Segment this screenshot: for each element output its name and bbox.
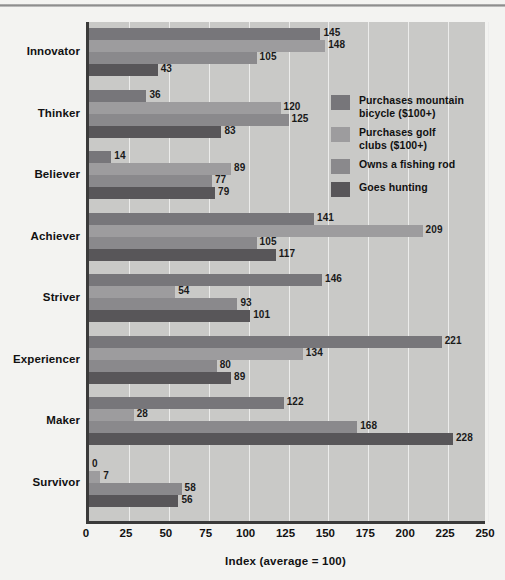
bar-value-label: 168 bbox=[360, 420, 377, 432]
bar[interactable] bbox=[89, 421, 357, 433]
bar[interactable] bbox=[89, 274, 322, 286]
x-axis-line bbox=[86, 521, 485, 524]
bar-value-label: 43 bbox=[161, 63, 172, 75]
bar-row: 148 bbox=[89, 40, 485, 52]
bar[interactable] bbox=[89, 483, 182, 495]
bar-row: 7 bbox=[89, 471, 485, 483]
bar-value-label: 221 bbox=[445, 335, 462, 347]
bar-row: 93 bbox=[89, 298, 485, 310]
bar[interactable] bbox=[89, 40, 325, 52]
bar[interactable] bbox=[89, 126, 221, 138]
bar[interactable] bbox=[89, 310, 250, 322]
bar[interactable] bbox=[89, 213, 314, 225]
bar-value-label: 0 bbox=[92, 458, 98, 470]
bar-row: 101 bbox=[89, 310, 485, 322]
category-label-maker: Maker bbox=[0, 414, 80, 426]
chart-legend: Purchases mountainbicycle ($100+)Purchas… bbox=[331, 94, 499, 204]
bar-group: 075856 bbox=[89, 459, 485, 507]
x-tick-0: 0 bbox=[66, 527, 106, 539]
bar-value-label: 134 bbox=[306, 347, 323, 359]
legend-swatch-icon bbox=[331, 182, 350, 197]
bar[interactable] bbox=[89, 187, 215, 199]
bar-row: 56 bbox=[89, 495, 485, 507]
bar[interactable] bbox=[89, 348, 303, 360]
bar-value-label: 105 bbox=[260, 236, 277, 248]
bar-value-label: 54 bbox=[178, 285, 189, 297]
bar-group: 141209105117 bbox=[89, 213, 485, 261]
legend-swatch-icon bbox=[331, 159, 350, 174]
bar-value-label: 28 bbox=[137, 408, 148, 420]
x-tick-175: 175 bbox=[345, 527, 385, 539]
legend-label: Goes hunting bbox=[359, 181, 428, 194]
bar-value-label: 228 bbox=[456, 432, 473, 444]
bar[interactable] bbox=[89, 102, 281, 114]
bar[interactable] bbox=[89, 64, 158, 76]
bar[interactable] bbox=[89, 237, 257, 249]
category-label-thinker: Thinker bbox=[0, 107, 80, 119]
bar[interactable] bbox=[89, 471, 100, 483]
bar[interactable] bbox=[89, 397, 284, 409]
bar-value-label: 117 bbox=[279, 248, 295, 260]
bar[interactable] bbox=[89, 336, 442, 348]
x-tick-200: 200 bbox=[385, 527, 425, 539]
bar[interactable] bbox=[89, 114, 289, 126]
bar-row: 134 bbox=[89, 348, 485, 360]
bar-row: 168 bbox=[89, 421, 485, 433]
header-divider bbox=[0, 4, 505, 7]
bar[interactable] bbox=[89, 372, 231, 384]
bar-row: 146 bbox=[89, 274, 485, 286]
bar[interactable] bbox=[89, 433, 453, 445]
x-tick-125: 125 bbox=[266, 527, 306, 539]
x-tick-250: 250 bbox=[465, 527, 505, 539]
bar[interactable] bbox=[89, 28, 320, 40]
bar-row: 221 bbox=[89, 336, 485, 348]
bar-row: 0 bbox=[89, 459, 485, 471]
bar[interactable] bbox=[89, 52, 257, 64]
bar-row: 209 bbox=[89, 225, 485, 237]
x-tick-100: 100 bbox=[226, 527, 266, 539]
bar-value-label: 83 bbox=[224, 125, 235, 137]
bar-row: 117 bbox=[89, 249, 485, 261]
category-label-survivor: Survivor bbox=[0, 476, 80, 488]
bar[interactable] bbox=[89, 175, 212, 187]
bar-value-label: 105 bbox=[260, 51, 277, 63]
bar-value-label: 89 bbox=[234, 162, 245, 174]
bar-value-label: 77 bbox=[215, 174, 226, 186]
bar-value-label: 141 bbox=[317, 212, 334, 224]
category-label-innovator: Innovator bbox=[0, 45, 80, 57]
bar[interactable] bbox=[89, 90, 146, 102]
bar-value-label: 58 bbox=[185, 482, 196, 494]
bar[interactable] bbox=[89, 286, 175, 298]
category-label-striver: Striver bbox=[0, 291, 80, 303]
bar-row: 54 bbox=[89, 286, 485, 298]
bar[interactable] bbox=[89, 249, 276, 261]
category-label-believer: Believer bbox=[0, 168, 80, 180]
bar-row: 145 bbox=[89, 28, 485, 40]
bar-row: 80 bbox=[89, 360, 485, 372]
bar-value-label: 89 bbox=[234, 371, 245, 383]
bar[interactable] bbox=[89, 151, 111, 163]
bar[interactable] bbox=[89, 409, 134, 421]
bar-value-label: 148 bbox=[328, 39, 345, 51]
legend-item[interactable]: Purchases mountainbicycle ($100+) bbox=[331, 94, 499, 119]
bar[interactable] bbox=[89, 225, 423, 237]
bar[interactable] bbox=[89, 298, 237, 310]
bar-value-label: 79 bbox=[218, 186, 229, 198]
bar-row: 28 bbox=[89, 409, 485, 421]
legend-item[interactable]: Goes hunting bbox=[331, 181, 499, 197]
bar[interactable] bbox=[89, 495, 178, 507]
bar-row: 58 bbox=[89, 483, 485, 495]
bar-value-label: 93 bbox=[240, 297, 251, 309]
bar-value-label: 14 bbox=[114, 150, 125, 162]
legend-item[interactable]: Purchases golfclubs ($100+) bbox=[331, 126, 499, 151]
x-tick-50: 50 bbox=[146, 527, 186, 539]
chart-page: 1451481054336120125831489777914120910511… bbox=[0, 0, 505, 580]
bar[interactable] bbox=[89, 360, 217, 372]
bar-value-label: 36 bbox=[149, 89, 160, 101]
bar[interactable] bbox=[89, 163, 231, 175]
bar-value-label: 7 bbox=[103, 470, 109, 482]
bar-group: 1465493101 bbox=[89, 274, 485, 322]
legend-item[interactable]: Owns a fishing rod bbox=[331, 158, 499, 174]
category-label-experiencer: Experiencer bbox=[0, 353, 80, 365]
bar-value-label: 209 bbox=[426, 224, 443, 236]
